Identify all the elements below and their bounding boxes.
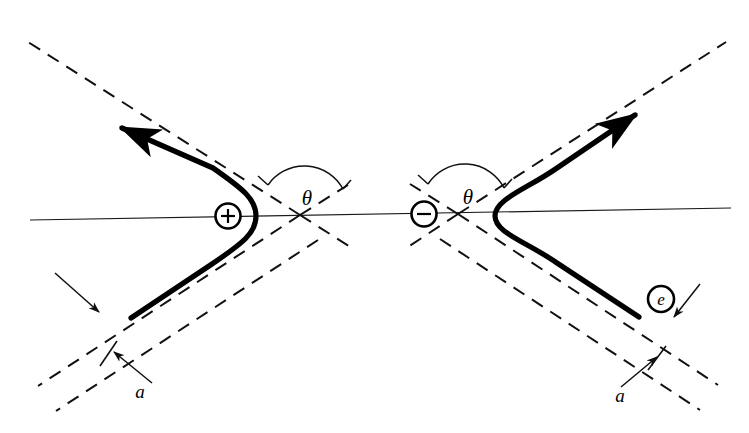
- impact-leader-left-lower: [114, 352, 152, 383]
- scattering-figure: θ a θ e: [0, 0, 749, 433]
- asymptote-left-lower-outer: [56, 240, 318, 411]
- scattering-diagram-canvas: θ a θ e: [0, 0, 749, 433]
- symmetry-axis: [30, 208, 731, 220]
- impact-leader-left-upper: [55, 273, 99, 312]
- asymptote-left-upper-inner: [28, 42, 300, 215]
- asymptote-right-lower-inner: [458, 214, 718, 385]
- theta-label-right: θ: [463, 185, 473, 209]
- trajectory-right-branch: [495, 115, 639, 317]
- asymptote-right-lower-outer: [440, 239, 700, 410]
- electron-label: e: [657, 290, 665, 309]
- theta-arc-right-start-tick: [418, 175, 428, 184]
- asymptote-right-upper-inner: [458, 42, 726, 214]
- gap-tick-right: [648, 346, 666, 370]
- asymptote-left-lower-inner: [38, 215, 300, 386]
- theta-arc-left-end-tick: [343, 180, 351, 189]
- theta-arc-left-start-tick: [258, 176, 268, 185]
- gap-tick-left: [100, 341, 117, 366]
- impact-parameter-label-left: a: [135, 381, 145, 402]
- asymptote-left-stub-lower-right: [300, 215, 352, 248]
- impact-parameter-label-right: a: [615, 385, 625, 406]
- theta-label-left: θ: [302, 186, 312, 210]
- electron-leader-line: [674, 284, 700, 317]
